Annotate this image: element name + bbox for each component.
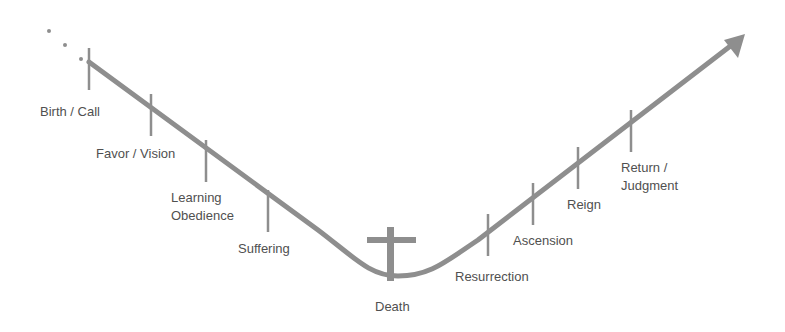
label-return: Return / <box>621 159 667 177</box>
label-favor-vision: Favor / Vision <box>96 145 175 163</box>
label-judgment: Judgment <box>621 177 678 195</box>
label-death: Death <box>375 298 410 316</box>
ellipsis-dots-icon <box>47 29 83 61</box>
label-reign: Reign <box>567 196 601 214</box>
label-resurrection: Resurrection <box>455 268 529 286</box>
label-learning: Learning <box>171 189 222 207</box>
label-suffering: Suffering <box>238 240 290 258</box>
timeline-diagram <box>0 0 785 332</box>
label-birth-call: Birth / Call <box>40 103 100 121</box>
label-ascension: Ascension <box>513 232 573 250</box>
label-obedience: Obedience <box>171 207 234 225</box>
